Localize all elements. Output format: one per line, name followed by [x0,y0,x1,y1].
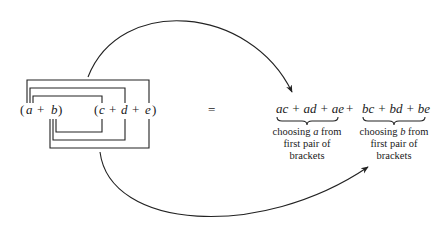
close-paren-2: ) [152,102,156,117]
term-e: e [145,102,151,117]
plus-ab: + [37,102,44,117]
term-b: b [51,102,58,117]
caption-b-line3: brackets [377,150,412,161]
underbrace-a-icon [277,117,338,125]
open-paren-2: ( [94,102,98,117]
second-bracket-expression: ( c + d + e ) [94,102,156,117]
group-b: bc + bd + be choosing b from first pair … [360,101,431,161]
term-d: d [121,102,128,117]
connector-b-e [50,119,149,148]
caption-b-line2: first pair of [370,138,418,149]
caption-a-line2: first pair of [283,138,331,149]
group-a: ac + ad + ae choosing a from first pair … [273,101,345,161]
connectors-from-a [27,80,149,103]
caption-a-line1: choosing a from [273,126,342,137]
expression-b-terms: bc + bd + be [362,101,430,116]
term-a: a [26,102,33,117]
first-bracket-expression: ( a + b ) [20,102,62,117]
arrow-to-group-b-icon [100,152,368,217]
underbrace-b-icon [363,117,425,125]
term-c: c [99,102,105,117]
connector-b-d [53,119,125,140]
plus-cd: + [109,102,116,117]
close-paren-1: ) [58,102,62,117]
expression-a-terms: ac + ad + ae [276,101,344,116]
connector-b-c [56,119,102,132]
caption-a-line3: brackets [290,150,325,161]
plus-de: + [132,102,139,117]
expansion-diagram: ( a + b ) ( c + d + e ) = ac + ad + ae c… [0,0,448,234]
connector-a-e [27,80,149,103]
open-paren-1: ( [20,102,24,117]
arrow-to-group-a-icon [88,21,292,92]
connectors-from-b [50,119,149,148]
join-plus: + [346,101,353,116]
equals-sign: = [208,102,215,117]
caption-b-line1: choosing b from [360,126,429,137]
